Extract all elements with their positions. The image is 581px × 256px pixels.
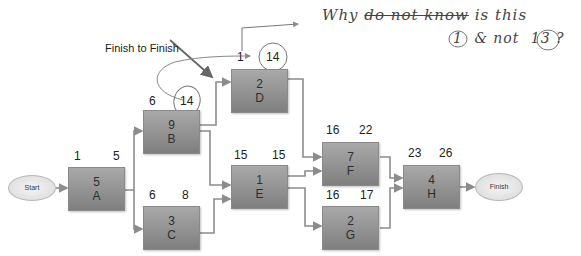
task-d-label: D	[232, 91, 287, 105]
task-d-early-finish: 14	[266, 50, 279, 64]
task-a-early-finish: 5	[113, 149, 120, 163]
task-d-duration: 2	[232, 77, 287, 91]
task-e-early-start: 15	[234, 148, 247, 162]
handwritten-comment-line2: 1 & not 13 ?	[453, 30, 565, 46]
task-f-early-finish: 22	[359, 123, 372, 137]
task-c: 3 C	[143, 206, 200, 250]
task-a-label: A	[69, 189, 124, 203]
task-h: 4 H	[403, 165, 460, 209]
task-h-early-finish: 26	[439, 146, 452, 160]
hand-circled-1: 1	[453, 30, 463, 46]
hand-circled-13: 13	[531, 30, 551, 46]
task-b-early-finish: 14	[180, 94, 193, 108]
task-b-duration: 9	[144, 118, 199, 132]
task-b-label: B	[144, 132, 199, 146]
task-f-early-start: 16	[326, 123, 339, 137]
hand-struck-text: do not know	[364, 6, 469, 24]
task-g: 2 G	[322, 206, 379, 250]
finish-node-label: Finish	[490, 183, 509, 190]
task-b: 9 B	[143, 110, 200, 154]
task-g-duration: 2	[323, 214, 378, 228]
task-e-label: E	[232, 187, 287, 201]
task-d: 2 D	[231, 69, 288, 113]
task-c-label: C	[144, 228, 199, 242]
task-c-early-finish: 8	[182, 188, 189, 202]
finish-to-finish-label: Finish to Finish	[105, 42, 179, 54]
start-node: Start	[8, 175, 56, 201]
task-e-early-finish: 15	[272, 148, 285, 162]
task-h-early-start: 23	[408, 146, 421, 160]
task-d-early-start: 1	[237, 50, 244, 64]
handwritten-comment-line1: Why do not know is this	[322, 6, 527, 24]
task-a: 5 A	[68, 167, 125, 211]
start-node-label: Start	[25, 184, 40, 191]
task-g-label: G	[323, 228, 378, 242]
task-e: 1 E	[231, 165, 288, 209]
hand-suffix: is this	[475, 6, 527, 24]
task-a-duration: 5	[69, 175, 124, 189]
task-g-early-start: 16	[326, 188, 339, 202]
hand-why: Why	[322, 6, 359, 24]
task-c-duration: 3	[144, 214, 199, 228]
task-a-early-start: 1	[74, 149, 81, 163]
task-e-duration: 1	[232, 173, 287, 187]
hand-and-not: & not	[474, 30, 519, 46]
hand-question: ?	[556, 30, 565, 46]
task-f-label: F	[323, 164, 378, 178]
finish-node: Finish	[475, 173, 523, 201]
task-h-duration: 4	[404, 173, 459, 187]
task-c-early-start: 6	[149, 188, 156, 202]
task-b-early-start: 6	[149, 94, 156, 108]
task-f: 7 F	[322, 142, 379, 186]
task-f-duration: 7	[323, 150, 378, 164]
task-h-label: H	[404, 187, 459, 201]
network-diagram: Start Finish 1 5 5 A 6 14 9 B 6 8 3 C 1 …	[0, 0, 581, 256]
task-g-early-finish: 17	[360, 188, 373, 202]
